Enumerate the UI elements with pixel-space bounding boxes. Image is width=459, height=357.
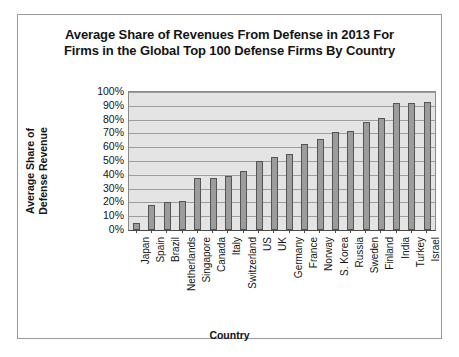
bar-slot	[420, 92, 435, 230]
bar-slot	[358, 92, 373, 230]
y-axis-tick-label: 60%	[78, 141, 124, 152]
x-axis-tick-mark	[350, 229, 351, 233]
bar	[424, 102, 431, 230]
bar	[271, 157, 278, 230]
y-axis-tick-label: 0%	[78, 224, 124, 235]
x-axis-tick-slot: Italy	[220, 233, 235, 323]
bar	[240, 171, 247, 230]
x-axis-tick-slot: UK	[266, 233, 281, 323]
bar-slot	[267, 92, 282, 230]
chart-title: Average Share of Revenues From Defense i…	[18, 27, 441, 59]
x-axis-tick-slot: Japan	[128, 233, 143, 323]
y-axis-title: Average Share of Defense Revenue	[24, 111, 50, 231]
y-axis-tick-labels: 100%90%80%70%60%50%40%30%20%10%0%	[78, 85, 124, 235]
x-axis-tick-slot: Turkey	[403, 233, 418, 323]
x-axis-tick-mark	[304, 229, 305, 233]
bar	[317, 139, 324, 230]
x-axis-tick-slot: Russia	[342, 233, 357, 323]
bar	[301, 144, 308, 230]
x-axis-tick-mark	[227, 229, 228, 233]
y-axis-tick-label: 80%	[78, 114, 124, 125]
bar-slot	[221, 92, 236, 230]
x-axis-tick-mark	[289, 229, 290, 233]
chart-frame: Average Share of Revenues From Defense i…	[17, 14, 442, 339]
bar	[164, 202, 171, 230]
y-axis-tick-label: 20%	[78, 196, 124, 207]
y-axis-title-line-1: Average Share of	[24, 111, 37, 231]
bar-slot	[205, 92, 220, 230]
x-axis-tick-slot: Sweden	[357, 233, 372, 323]
bar	[148, 205, 155, 230]
bar	[347, 131, 354, 230]
plot-area	[128, 91, 436, 231]
bar	[194, 178, 201, 230]
y-axis-tick-label: 100%	[78, 86, 124, 97]
y-axis-tick-label: 70%	[78, 127, 124, 138]
x-axis-tick-slot: Finland	[373, 233, 388, 323]
x-axis-tick-mark	[151, 229, 152, 233]
x-axis-tick-slot: France	[296, 233, 311, 323]
x-axis-tick-slot: US	[250, 233, 265, 323]
x-axis-tick-mark	[166, 229, 167, 233]
bar-slot	[144, 92, 159, 230]
x-axis-tick-label: Israel	[430, 237, 441, 261]
x-axis-tick-mark	[335, 229, 336, 233]
y-axis-tick-label: 10%	[78, 210, 124, 221]
x-axis-tick-mark	[365, 229, 366, 233]
x-axis-tick-mark	[396, 229, 397, 233]
bar	[286, 154, 293, 230]
bar	[378, 118, 385, 230]
x-axis-tick-labels: JapanSpainBrazilNetherlandsSingaporeCana…	[128, 233, 434, 323]
bar-slot	[328, 92, 343, 230]
x-axis-tick-slot: Spain	[143, 233, 158, 323]
bar-slot	[282, 92, 297, 230]
x-axis-tick-mark	[182, 229, 183, 233]
bar-slot	[160, 92, 175, 230]
bar	[393, 103, 400, 230]
x-axis-tick-mark	[411, 229, 412, 233]
x-axis-tick-mark	[273, 229, 274, 233]
x-axis-tick-slot: Switzerland	[235, 233, 250, 323]
x-axis-tick-mark	[197, 229, 198, 233]
x-axis-tick-slot: Singapore	[189, 233, 204, 323]
bar-slot	[313, 92, 328, 230]
x-axis-tick-slot: Netherlands	[174, 233, 189, 323]
x-axis-tick-slot: Israel	[419, 233, 434, 323]
x-axis-tick-mark	[319, 229, 320, 233]
bar-slot	[251, 92, 266, 230]
bar-slot	[175, 92, 190, 230]
bar-slot	[190, 92, 205, 230]
x-axis-title: Country	[18, 329, 441, 341]
x-axis-tick-slot: S. Korea	[327, 233, 342, 323]
x-axis-tick-mark	[380, 229, 381, 233]
x-axis-tick-mark	[426, 229, 427, 233]
bar	[179, 201, 186, 230]
bar-slot	[374, 92, 389, 230]
bar	[363, 122, 370, 230]
chart-title-line-1: Average Share of Revenues From Defense i…	[18, 27, 441, 43]
bar	[332, 132, 339, 230]
bar	[256, 161, 263, 230]
x-axis-tick-slot: Norway	[312, 233, 327, 323]
x-axis-tick-slot: Brazil	[159, 233, 174, 323]
x-axis-tick-slot: Canada	[204, 233, 219, 323]
y-axis-tick-label: 90%	[78, 100, 124, 111]
x-axis-tick-mark	[136, 229, 137, 233]
bar-series	[129, 92, 435, 230]
bar	[225, 176, 232, 230]
bar-slot	[297, 92, 312, 230]
y-axis-tick-label: 30%	[78, 183, 124, 194]
bar-slot	[389, 92, 404, 230]
bar-slot	[129, 92, 144, 230]
bar-slot	[236, 92, 251, 230]
bar	[210, 178, 217, 230]
x-axis-tick-slot: India	[388, 233, 403, 323]
bar-slot	[404, 92, 419, 230]
bar	[133, 223, 140, 230]
x-axis-tick-mark	[212, 229, 213, 233]
bar-slot	[343, 92, 358, 230]
y-axis-title-line-2: Defense Revenue	[37, 111, 50, 231]
y-axis-tick-label: 50%	[78, 155, 124, 166]
bar	[408, 103, 415, 230]
chart-title-line-2: Firms in the Global Top 100 Defense Firm…	[18, 43, 441, 59]
